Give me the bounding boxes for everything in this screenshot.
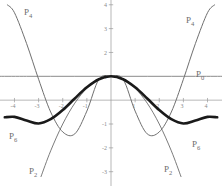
chart-canvas: -4-3-2-11234-3-2-11234 (0, 0, 222, 186)
y-tick-label: -2 (102, 145, 107, 151)
curve-label-p0-right: P0 (196, 70, 204, 81)
curve-label-subscript: 6 (14, 136, 17, 143)
taylor-polynomial-chart: -4-3-2-11234-3-2-11234 P4P4P0P6P6P2P2 (0, 0, 222, 186)
curve-label-subscript: 2 (34, 171, 37, 178)
curve-label-p6-left: P6 (9, 132, 17, 143)
axes-layer (0, 0, 222, 186)
curve-label-subscript: 4 (29, 12, 32, 19)
x-tick-label: -3 (35, 103, 40, 109)
curve-label-subscript: 6 (197, 144, 200, 151)
x-tick-label: -4 (10, 103, 15, 109)
curve-label-subscript: 4 (191, 20, 194, 27)
curve-label-p2-right: P2 (164, 165, 172, 176)
curve-label-p4-right: P4 (186, 16, 194, 27)
curve-label-subscript: 0 (201, 74, 204, 81)
curve-label-p6-right: P6 (192, 140, 200, 151)
y-tick-label: -3 (102, 169, 107, 175)
y-tick-label: -1 (102, 121, 107, 127)
y-tick-label: 3 (104, 26, 107, 32)
x-tick-label: -1 (83, 103, 88, 109)
tick-labels-layer: -4-3-2-11234-3-2-11234 (10, 2, 207, 175)
y-tick-label: 2 (104, 50, 107, 56)
x-tick-label: 3 (180, 103, 183, 109)
curve-label-p4-left: P4 (24, 8, 32, 19)
y-tick-label: 4 (104, 2, 107, 8)
curve-label-subscript: 2 (169, 169, 172, 176)
curve-label-p2-left: P2 (29, 167, 37, 178)
x-tick-label: 4 (205, 103, 208, 109)
